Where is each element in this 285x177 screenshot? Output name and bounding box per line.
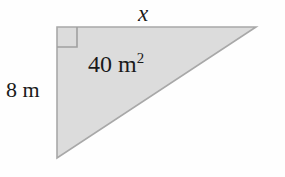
left-side-label: 8 m: [6, 79, 40, 101]
triangle-shape: [57, 27, 256, 158]
area-label: 40 m2: [88, 52, 144, 76]
area-exponent: 2: [137, 50, 144, 66]
triangle-diagram-svg: [0, 0, 285, 177]
geometry-figure: x 8 m 40 m2: [0, 0, 285, 177]
top-side-label: x: [138, 2, 148, 25]
area-value: 40 m: [88, 51, 137, 77]
